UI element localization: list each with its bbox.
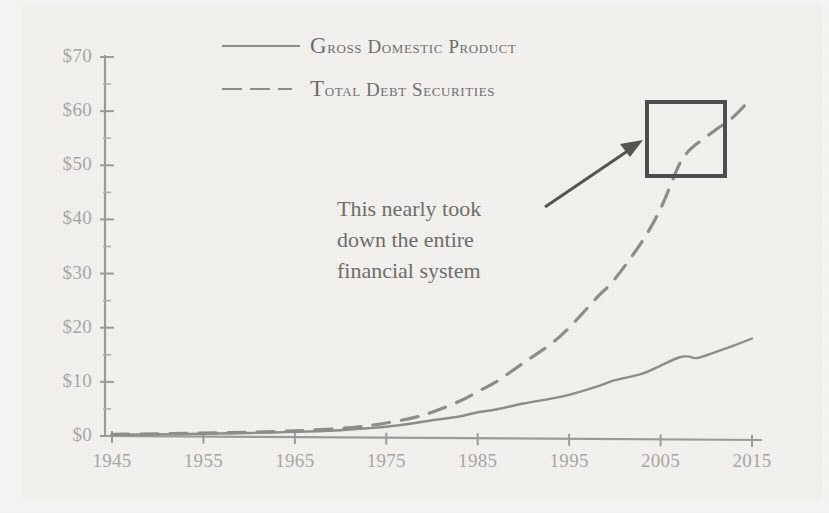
series-line-gdp <box>112 339 752 435</box>
crisis-highlight-box <box>645 100 727 178</box>
y-tick-label: $60 <box>22 99 92 121</box>
solid-line-icon <box>222 41 300 51</box>
annotation-arrow <box>545 140 643 207</box>
x-tick-label: 1965 <box>255 450 335 472</box>
legend-item-debt: Total Debt Securities <box>222 76 495 102</box>
annotation-line-2: down the entire <box>337 224 552 255</box>
annotation-line-3: financial system <box>337 255 552 286</box>
y-tick-label: $30 <box>22 262 92 284</box>
legend-label-debt: Total Debt Securities <box>310 76 495 102</box>
y-axis-ticks <box>100 57 114 436</box>
annotation-line-1: This nearly took <box>337 193 552 224</box>
dashed-line-icon <box>222 84 300 94</box>
annotation-text: This nearly took down the entire financi… <box>337 193 552 287</box>
y-tick-label: $40 <box>22 207 92 229</box>
legend-label-gdp: Gross Domestic Product <box>310 33 517 59</box>
x-tick-label: 1995 <box>529 450 609 472</box>
y-tick-label: $70 <box>22 45 92 67</box>
y-tick-label: $50 <box>22 153 92 175</box>
y-tick-label: $10 <box>22 370 92 392</box>
legend-item-gdp: Gross Domestic Product <box>222 33 517 59</box>
x-tick-label: 1975 <box>346 450 426 472</box>
x-tick-label: 1945 <box>72 450 152 472</box>
y-tick-label: $0 <box>22 424 92 446</box>
arrow-shaft <box>545 146 635 207</box>
x-tick-label: 2005 <box>621 450 701 472</box>
y-tick-label: $20 <box>22 316 92 338</box>
x-tick-label: 2015 <box>712 450 792 472</box>
chart-figure: $0$10$20$30$40$50$60$70 1945195519651975… <box>0 0 829 513</box>
x-tick-label: 1985 <box>438 450 518 472</box>
x-tick-label: 1955 <box>163 450 243 472</box>
